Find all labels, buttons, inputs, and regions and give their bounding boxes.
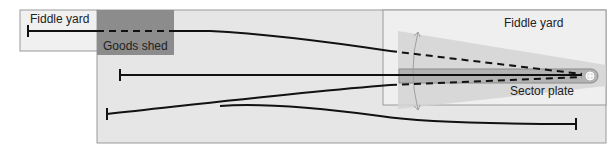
label-fiddle-yard-left: Fiddle yard [30,13,89,25]
pivot-icon [586,72,594,80]
label-sector-plate: Sector plate [510,85,574,97]
label-goods-shed: Goods shed [103,40,168,52]
label-fiddle-yard-right: Fiddle yard [504,17,563,29]
